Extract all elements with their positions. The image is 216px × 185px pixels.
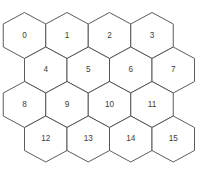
hex-label-13: 13	[84, 134, 94, 143]
hex-label-6: 6	[128, 65, 133, 74]
hex-label-4: 4	[43, 65, 48, 74]
hex-label-12: 12	[41, 134, 51, 143]
hex-label-14: 14	[126, 134, 136, 143]
hex-label-11: 11	[148, 100, 157, 109]
hex-label-15: 15	[169, 134, 179, 143]
hex-label-0: 0	[22, 31, 27, 40]
hex-label-1: 1	[65, 31, 70, 40]
hex-label-8: 8	[22, 100, 27, 109]
hex-label-7: 7	[171, 65, 176, 74]
hex-grid-figure: 0123456789101112131415	[0, 0, 216, 185]
hex-label-9: 9	[65, 100, 70, 109]
hex-label-10: 10	[105, 100, 115, 109]
hex-cells-group	[3, 13, 194, 163]
hex-grid-canvas: 0123456789101112131415	[0, 0, 216, 185]
hex-label-2: 2	[107, 31, 112, 40]
hex-label-3: 3	[150, 31, 155, 40]
hex-label-5: 5	[86, 65, 91, 74]
